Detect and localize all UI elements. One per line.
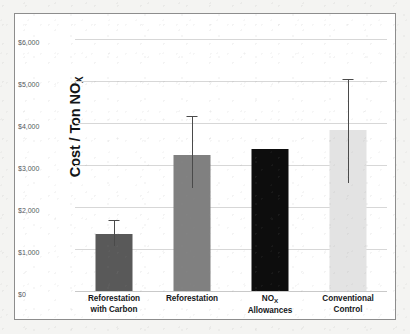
error-bar	[343, 79, 354, 183]
error-bar-stem	[348, 79, 349, 183]
error-bar	[109, 220, 120, 247]
bar-slot	[75, 39, 153, 291]
x-axis-label-subscript: X	[274, 297, 278, 304]
error-bar-stem	[192, 116, 193, 188]
bar-slot	[153, 39, 231, 291]
error-bar-cap-top	[109, 220, 120, 221]
x-axis-label: NOXAllowances	[225, 294, 315, 317]
x-axis-labels-group: Reforestationwith CarbonReforestationNOX…	[75, 294, 387, 324]
plot-area: $0$1,000$2,000$3,000$4,000$5,000$6,000	[75, 39, 387, 291]
error-bar-stem	[114, 220, 115, 247]
error-bar-cap-top	[187, 116, 198, 117]
x-axis-label-line1: Conventional	[322, 294, 373, 303]
x-axis-label-line2: Control	[334, 305, 363, 314]
y-axis-tick-label: $4,000	[18, 123, 73, 141]
y-axis-tick-label: $1,000	[18, 249, 73, 267]
error-bar	[187, 116, 198, 188]
bar-slot	[309, 39, 387, 291]
y-axis-tick-label: $3,000	[18, 165, 73, 183]
y-axis-tick-label: $6,000	[18, 39, 73, 57]
bar[interactable]	[252, 149, 289, 291]
figure-root: Cost / Ton NOX $0$1,000$2,000$3,000$4,00…	[0, 0, 410, 334]
x-axis-label-line1: Reforestation	[166, 294, 218, 303]
x-axis-label: ConventionalControl	[303, 294, 393, 315]
x-axis-label-line1: NO	[262, 294, 274, 303]
x-axis-label: Reforestationwith Carbon	[69, 294, 159, 315]
gridline	[75, 291, 387, 292]
y-axis-tick-label: $5,000	[18, 81, 73, 99]
error-bar-cap-top	[343, 79, 354, 80]
chart-frame: Cost / Ton NOX $0$1,000$2,000$3,000$4,00…	[14, 13, 396, 320]
x-axis-label: Reforestation	[147, 294, 237, 305]
y-axis-tick-label: $2,000	[18, 207, 73, 225]
y-axis-tick-label: $0	[18, 291, 73, 309]
x-axis-label-line2: with Carbon	[91, 305, 138, 314]
bar-slot	[231, 39, 309, 291]
x-axis-label-line2: Allowances	[248, 306, 293, 315]
x-axis-label-line1: Reforestation	[88, 294, 140, 303]
